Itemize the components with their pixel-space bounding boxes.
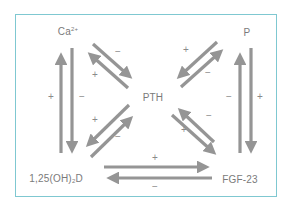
sign-left-down: − bbox=[79, 92, 85, 102]
node-pth: PTH bbox=[143, 92, 164, 103]
sign-fgf-to-pth: − bbox=[206, 111, 212, 121]
sign-pth-to-fgf: + bbox=[181, 125, 187, 135]
node-phosphate: P bbox=[244, 27, 251, 38]
vitd-label-post: D bbox=[75, 173, 82, 184]
calcium-label: Ca bbox=[58, 26, 71, 37]
sign-left-up: + bbox=[48, 92, 54, 102]
sign-vitd-to-fgf: + bbox=[152, 153, 158, 163]
sign-p-to-pth: + bbox=[183, 45, 189, 55]
node-calcium: Ca2+ bbox=[58, 26, 78, 37]
node-fgf23: FGF-23 bbox=[222, 174, 258, 185]
sign-fgf-to-vitd: − bbox=[152, 182, 158, 192]
vitd-label-pre: 1,25(OH) bbox=[29, 173, 72, 184]
phosphate-label: P bbox=[244, 27, 251, 38]
node-vitamin-d: 1,25(OH)2D bbox=[29, 173, 83, 184]
pth-label: PTH bbox=[143, 92, 164, 103]
sign-right-down: + bbox=[257, 92, 263, 102]
sign-vitd-to-pth: − bbox=[115, 132, 121, 142]
sign-pth-to-vitd: + bbox=[92, 115, 98, 125]
calcium-charge: 2+ bbox=[71, 26, 78, 32]
sign-pth-to-p: − bbox=[205, 68, 211, 78]
sign-right-up: − bbox=[226, 92, 232, 102]
sign-pth-to-ca: + bbox=[92, 70, 98, 80]
pth-feedback-diagram: Ca2+ P PTH 1,25(OH)2D FGF-23 + − − + − +… bbox=[0, 0, 295, 205]
fgf23-label: FGF-23 bbox=[222, 174, 258, 185]
sign-ca-to-pth: − bbox=[115, 47, 121, 57]
